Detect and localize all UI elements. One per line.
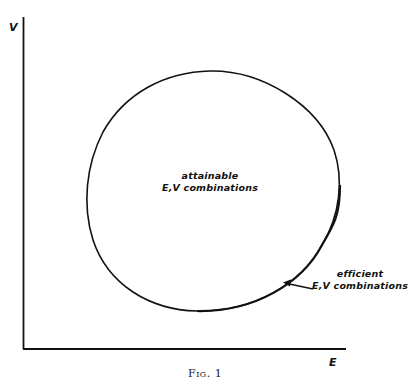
attainable-label-line2: E,V combinations [162,182,258,194]
efficient-label-line1: efficient [312,268,408,280]
efficient-region-label: efficient E,V combinations [312,268,408,292]
attainable-region-label: attainable E,V combinations [162,170,258,194]
plot-area [0,0,415,390]
efficient-frontier [197,185,340,311]
x-axis-label: E [329,356,337,369]
efficient-label-line2: E,V combinations [312,280,408,292]
figure-caption: Fig. 1 [188,367,222,380]
y-axis-label: V [9,21,18,34]
attainable-label-line1: attainable [162,170,258,182]
figure: V E attainable E,V combinations efficien… [0,0,415,390]
efficient-arrow-shaft [287,284,313,290]
